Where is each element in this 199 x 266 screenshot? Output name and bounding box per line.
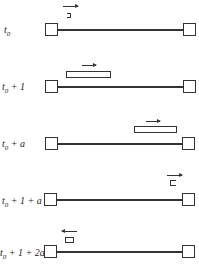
time-label-t0-plus-a: t0 + a xyxy=(2,138,25,152)
arrow-right-icon xyxy=(63,6,78,7)
left-node xyxy=(45,23,58,36)
right-node xyxy=(182,245,195,258)
arrow-right-icon xyxy=(82,65,96,66)
right-node xyxy=(183,23,196,36)
link-line xyxy=(57,251,182,253)
link-line xyxy=(58,143,183,145)
left-node xyxy=(44,193,57,206)
arrow-left-icon xyxy=(62,231,77,232)
arrow-right-icon xyxy=(146,121,160,122)
right-node xyxy=(182,137,195,150)
time-label-t0: t0 xyxy=(4,24,10,38)
ack-packet xyxy=(65,237,74,243)
left-node xyxy=(45,137,58,150)
packet xyxy=(134,126,177,133)
left-node xyxy=(45,80,58,93)
packet xyxy=(170,180,176,186)
time-label-t0-plus-1: t0 + 1 xyxy=(2,81,25,95)
time-label-t0-plus-1-plus-2a: t0 + 1 + 2a xyxy=(0,247,45,261)
time-label-t0-plus-1-plus-a: t0 + 1 + a xyxy=(2,195,42,209)
packet xyxy=(67,13,71,18)
left-node xyxy=(44,245,57,258)
link-line xyxy=(58,29,183,31)
link-line xyxy=(57,199,182,201)
arrow-right-icon xyxy=(167,175,182,176)
link-line xyxy=(58,86,183,88)
packet xyxy=(66,71,111,78)
right-node xyxy=(182,193,195,206)
right-node xyxy=(183,80,196,93)
